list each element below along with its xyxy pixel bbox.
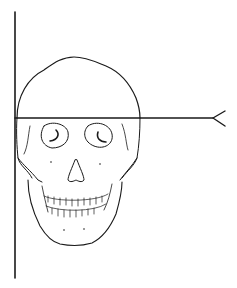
skull-side-right	[122, 118, 140, 178]
eye-socket-left	[41, 123, 68, 148]
eye-inner-left	[50, 130, 58, 141]
cheekbone-left	[18, 158, 42, 182]
cheekbone-right	[120, 158, 137, 180]
skull-diagram	[0, 0, 237, 288]
jaw-outline	[28, 180, 122, 245]
temporal-line-right	[122, 124, 128, 150]
eye-inner-right	[97, 132, 106, 142]
eye-socket-right	[85, 123, 113, 147]
nasal-cavity	[68, 160, 84, 182]
mental-foramen-dot	[83, 228, 85, 230]
upper-teeth	[44, 194, 108, 206]
fork-end-icon	[213, 111, 225, 126]
foramen-dot	[50, 161, 52, 163]
temporal-line-left	[24, 126, 30, 154]
lower-teeth	[46, 204, 106, 217]
cranium-outline	[17, 57, 140, 118]
foramen-dot	[99, 163, 101, 165]
mental-foramen-dot	[63, 229, 65, 231]
